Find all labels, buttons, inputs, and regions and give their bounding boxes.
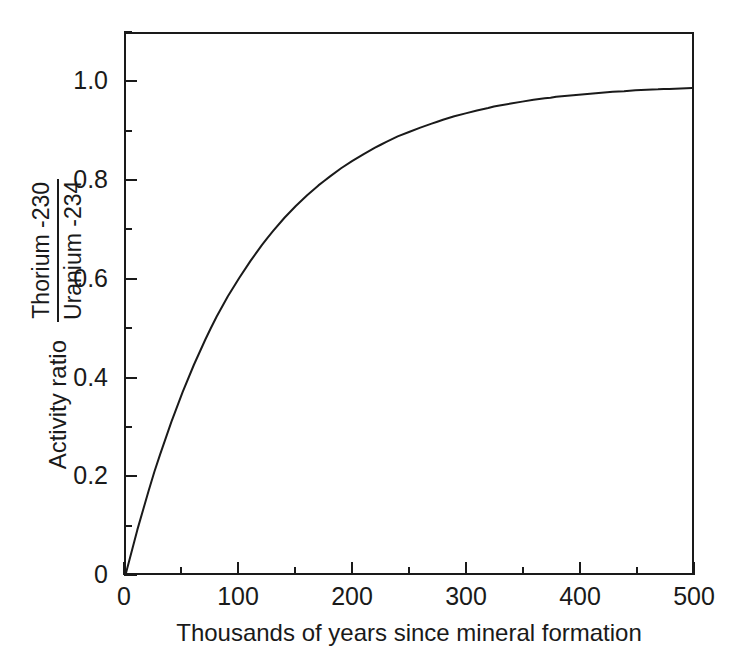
x-axis-tick-label: 0	[117, 584, 131, 609]
x-axis-tick	[693, 562, 695, 575]
y-axis-minor-tick	[124, 426, 132, 428]
x-axis-tick-label: 200	[331, 584, 373, 609]
y-axis-ratio-fraction: Thorium -230 Uranium -234	[29, 179, 87, 322]
x-axis-tick	[579, 562, 581, 575]
fraction-denominator: Uranium -234	[59, 179, 87, 322]
plot-area	[124, 32, 694, 575]
x-axis-tick	[237, 562, 239, 575]
y-axis-minor-tick	[124, 228, 132, 230]
x-axis-tick	[351, 562, 353, 575]
figure-container: 00.20.40.60.81.0 0100200300400500 Thousa…	[0, 0, 746, 667]
x-axis-tick-label: 500	[673, 584, 715, 609]
y-axis-minor-tick	[124, 31, 132, 33]
y-axis-tick	[124, 80, 137, 82]
x-axis-tick-label: 400	[559, 584, 601, 609]
y-axis-title-group: Activity ratio Thorium -230 Uranium -234	[28, 44, 88, 604]
y-axis-title-text: Activity ratio	[46, 340, 70, 469]
x-axis-tick-label: 100	[217, 584, 259, 609]
y-axis-tick	[124, 179, 137, 181]
x-axis-tick	[123, 562, 125, 575]
fraction-numerator: Thorium -230	[29, 179, 57, 322]
y-axis-minor-tick	[124, 130, 132, 132]
ingrowth-curve	[126, 88, 692, 573]
x-axis-minor-tick	[636, 567, 638, 575]
x-axis-minor-tick	[408, 567, 410, 575]
x-axis-minor-tick	[180, 567, 182, 575]
x-axis-minor-tick	[522, 567, 524, 575]
x-axis-title: Thousands of years since mineral formati…	[124, 621, 694, 645]
y-axis-tick	[124, 278, 137, 280]
y-axis-tick	[124, 377, 137, 379]
x-axis-minor-tick	[294, 567, 296, 575]
x-axis-tick	[465, 562, 467, 575]
y-axis-minor-tick	[124, 525, 132, 527]
y-axis-tick	[124, 574, 137, 576]
x-axis-tick-label: 300	[445, 584, 487, 609]
y-axis-minor-tick	[124, 327, 132, 329]
y-axis-tick	[124, 475, 137, 477]
curve-svg	[126, 34, 692, 573]
